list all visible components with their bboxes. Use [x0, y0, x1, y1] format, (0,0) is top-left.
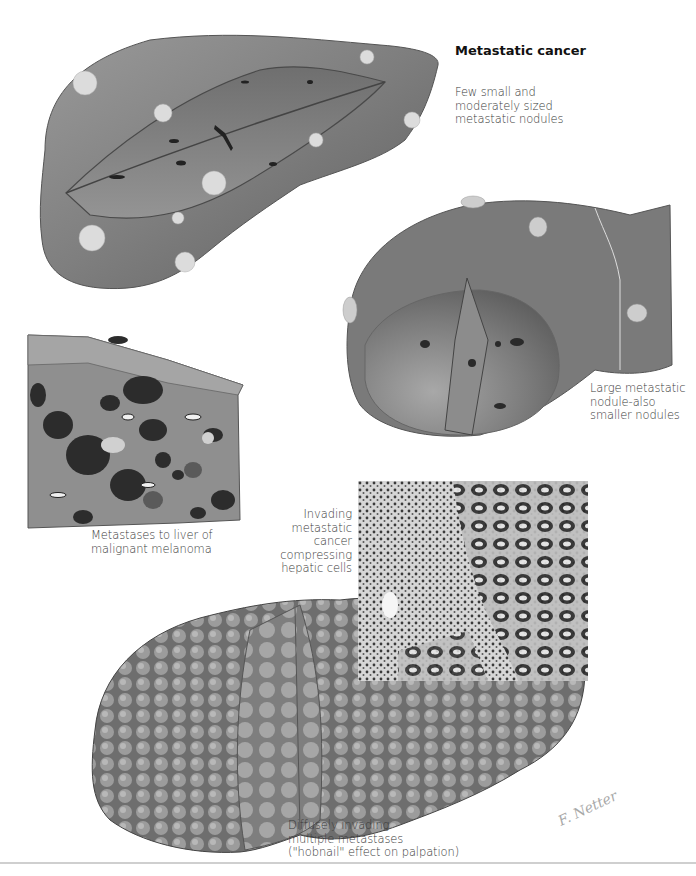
caption-few-nodules: Few small and moderately sized metastati…	[455, 86, 563, 127]
caption-micrograph: Invading metastatic cancer compressing h…	[262, 508, 352, 576]
micrograph-illustration	[358, 481, 588, 681]
caption-hobnail: Diffusely invading multiple metastases (…	[288, 819, 459, 860]
melanoma-section-illustration	[28, 335, 258, 530]
page-bottom-rule	[0, 862, 696, 864]
caption-large-nodule: Large metastatic nodule-also smaller nod…	[590, 382, 685, 423]
caption-melanoma: Metastases to liver of malignant melanom…	[91, 529, 213, 556]
plate-title: Metastatic cancer	[455, 43, 586, 58]
plate-page: Metastatic cancer	[0, 0, 696, 876]
